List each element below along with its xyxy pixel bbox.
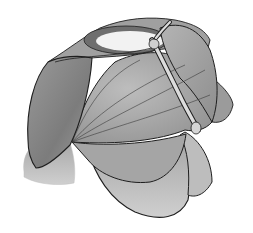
shell-structure-illustration (0, 0, 253, 233)
rib-node-bottom (191, 122, 201, 134)
rib-node-top (149, 39, 159, 49)
